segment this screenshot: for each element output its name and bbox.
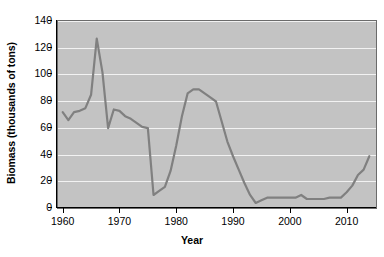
y-tick-mark bbox=[48, 207, 52, 208]
y-tick-mark bbox=[48, 20, 52, 21]
x-tick-label: 1990 bbox=[221, 215, 244, 227]
x-tick-label: 1970 bbox=[108, 215, 131, 227]
y-tick-mark bbox=[48, 73, 52, 74]
x-tick-label: 1980 bbox=[165, 215, 188, 227]
x-tick-label: 1960 bbox=[51, 215, 74, 227]
x-tick-mark bbox=[176, 208, 177, 213]
x-tick-mark bbox=[63, 208, 64, 213]
x-tick-label: 2000 bbox=[278, 215, 301, 227]
biomass-line-chart: Biomass (thousands of tons) 020406080100… bbox=[0, 0, 384, 257]
y-axis-tick-labels: 020406080100120140 bbox=[16, 0, 52, 225]
y-tick-mark bbox=[48, 127, 52, 128]
y-tick-mark bbox=[48, 47, 52, 48]
y-tick-mark bbox=[48, 180, 52, 181]
x-tick-label: 2010 bbox=[335, 215, 358, 227]
x-axis-line bbox=[56, 207, 376, 208]
series-line-biomass bbox=[63, 39, 370, 203]
data-series-layer bbox=[57, 20, 375, 207]
y-tick-mark bbox=[48, 154, 52, 155]
x-axis-title: Year bbox=[0, 234, 384, 246]
x-tick-mark bbox=[290, 208, 291, 213]
y-tick-mark bbox=[48, 100, 52, 101]
x-tick-mark bbox=[233, 208, 234, 213]
x-tick-mark bbox=[347, 208, 348, 213]
x-tick-mark bbox=[119, 208, 120, 213]
